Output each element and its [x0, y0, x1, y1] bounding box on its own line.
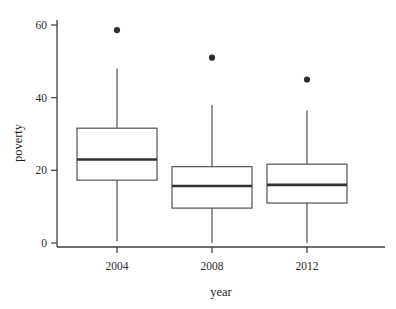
y-tick-label: 40: [36, 92, 48, 104]
y-tick-label: 0: [41, 237, 47, 249]
boxplot-group: [172, 55, 252, 243]
boxplot-group: [267, 76, 347, 243]
x-tick-label: 2004: [106, 260, 129, 272]
outlier-point: [304, 76, 310, 82]
y-tick-label: 20: [36, 164, 48, 176]
y-tick-label: 60: [36, 19, 48, 31]
plot-area: 0204060 200420082012 year poverty: [0, 0, 396, 309]
outlier-point: [114, 27, 120, 33]
box-iqr: [172, 167, 252, 208]
y-axis-title: poverty: [11, 123, 25, 162]
boxplot-group: [77, 27, 157, 241]
y-axis-ticks: 0204060: [36, 19, 58, 249]
x-axis-ticks: 200420082012: [106, 247, 319, 272]
x-tick-label: 2008: [201, 260, 224, 272]
box-series: [77, 27, 347, 243]
boxplot-chart: 0204060 200420082012 year poverty: [0, 0, 396, 309]
box-iqr: [77, 128, 157, 180]
x-tick-label: 2012: [296, 260, 319, 272]
x-axis-title: year: [210, 285, 232, 299]
outlier-point: [209, 55, 215, 61]
